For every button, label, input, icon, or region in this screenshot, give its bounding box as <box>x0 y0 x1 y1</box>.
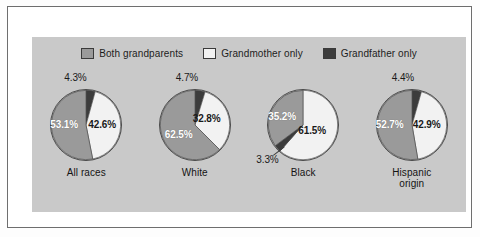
legend-label-both-grandparents: Both grandparents <box>99 48 183 59</box>
pie-label-black-grandmother: 61.5% <box>298 125 326 136</box>
legend-label-grandfather-only: Grandfather only <box>341 48 417 59</box>
category-line: All races <box>67 167 106 178</box>
pie-callout-all-races-grandfather: 4.3% <box>64 72 86 83</box>
pie-chart-row: 4.3% 42.6% 53.1% All races 4.7% <box>32 71 466 212</box>
category-line: origin <box>392 178 431 189</box>
pie-label-hispanic-origin-grandmother: 42.9% <box>413 119 441 130</box>
pie-wrap-hispanic-origin: 4.4% 42.9% 52.7% <box>376 89 448 161</box>
pie-wrap-white: 4.7% 32.8% 62.5% <box>159 89 231 161</box>
chart-legend: Both grandparents Grandmother only Grand… <box>32 48 466 59</box>
pie-svg-white <box>160 90 230 160</box>
pie-chart-white <box>159 89 231 161</box>
legend-item-both-grandparents: Both grandparents <box>81 48 183 59</box>
category-line: White <box>182 167 208 178</box>
pie-category-label-all-races: All races <box>67 167 106 178</box>
pie-group-white: 4.7% 32.8% 62.5% White <box>145 71 245 211</box>
pie-label-hispanic-origin-both: 52.7% <box>376 119 404 130</box>
pie-label-white-both: 62.5% <box>165 129 193 140</box>
legend-item-grandfather-only: Grandfather only <box>323 48 417 59</box>
pie-callout-white-grandfather: 4.7% <box>176 72 198 83</box>
legend-item-grandmother-only: Grandmother only <box>203 48 303 59</box>
figure-container: Both grandparents Grandmother only Grand… <box>0 0 480 237</box>
pie-category-label-black: Black <box>291 167 316 178</box>
pie-category-label-hispanic-origin: Hispanic origin <box>392 167 431 189</box>
pie-group-black: 35.2% 61.5% 3.3% Black <box>253 71 353 211</box>
pie-label-black-both: 35.2% <box>268 111 296 122</box>
legend-label-grandmother-only: Grandmother only <box>221 48 303 59</box>
pie-wrap-black: 35.2% 61.5% 3.3% <box>267 89 339 161</box>
chart-panel: Both grandparents Grandmother only Grand… <box>32 37 466 212</box>
pie-wrap-all-races: 4.3% 42.6% 53.1% <box>50 89 122 161</box>
pie-group-all-races: 4.3% 42.6% 53.1% All races <box>36 71 136 211</box>
pie-group-hispanic-origin: 4.4% 42.9% 52.7% Hispanic origin <box>362 71 462 211</box>
legend-swatch-both-grandparents <box>81 48 94 59</box>
pie-category-label-white: White <box>182 167 208 178</box>
pie-callout-hispanic-origin-grandfather: 4.4% <box>392 72 414 83</box>
category-line: Black <box>291 167 316 178</box>
legend-swatch-grandmother-only <box>203 48 216 59</box>
pie-label-all-races-both: 53.1% <box>50 119 78 130</box>
pie-callout-black-grandfather: 3.3% <box>256 154 278 165</box>
pie-label-all-races-grandmother: 42.6% <box>88 119 116 130</box>
category-line: Hispanic <box>392 167 431 178</box>
pie-label-white-grandmother: 32.8% <box>193 113 221 124</box>
figure-outer-frame: Both grandparents Grandmother only Grand… <box>7 6 472 228</box>
legend-swatch-grandfather-only <box>323 48 336 59</box>
